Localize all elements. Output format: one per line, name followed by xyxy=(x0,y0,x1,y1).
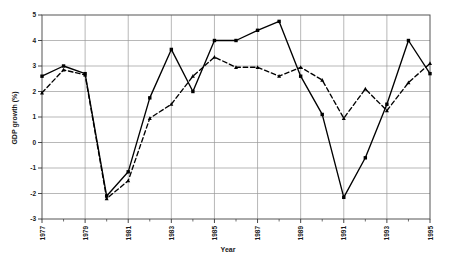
series-solid-marker xyxy=(105,194,108,197)
x-tick-label: 1991 xyxy=(340,226,347,241)
y-tick-label: -3 xyxy=(30,215,36,222)
x-tick-label: 1987 xyxy=(254,226,261,241)
series-solid-marker xyxy=(213,39,216,42)
series-solid-marker xyxy=(342,196,345,199)
series-solid-line xyxy=(42,21,430,197)
x-tick-label: 1979 xyxy=(82,226,89,241)
series-solid-marker xyxy=(62,64,65,67)
grid-lines xyxy=(42,15,430,219)
x-tick-label: 1981 xyxy=(125,226,132,241)
series-dashed-marker xyxy=(428,61,432,65)
series-solid-marker xyxy=(385,103,388,106)
series-solid-marker xyxy=(299,75,302,78)
series-solid-marker xyxy=(277,20,280,23)
series-solid-marker xyxy=(364,156,367,159)
series-dashed-line xyxy=(42,57,430,199)
y-tick-label: 2 xyxy=(32,88,36,95)
series-dashed-marker xyxy=(363,87,367,91)
gdp-growth-line-chart: 1977197919811983198519871989199119931995… xyxy=(0,0,450,262)
y-tick-label: 0 xyxy=(32,139,36,146)
x-axis-title: Year xyxy=(221,246,236,253)
y-tick-label: 3 xyxy=(32,62,36,69)
series-solid-marker xyxy=(256,29,259,32)
y-tick-label: 5 xyxy=(32,11,36,18)
series-dashed-marker xyxy=(126,179,130,183)
series-solid-marker xyxy=(40,75,43,78)
chart-canvas: 1977197919811983198519871989199119931995… xyxy=(0,0,450,262)
series-solid-marker xyxy=(407,39,410,42)
x-tick-label: 1985 xyxy=(211,226,218,241)
x-tick-label: 1977 xyxy=(39,226,46,241)
y-tick-label: 4 xyxy=(32,37,36,44)
series-solid-marker xyxy=(191,90,194,93)
series-solid-marker xyxy=(127,170,130,173)
data-series xyxy=(40,20,432,201)
y-tick-label: -2 xyxy=(30,190,36,197)
y-axis-title: GDP growth (%) xyxy=(11,91,19,144)
x-axis-ticks: 1977197919811983198519871989199119931995 xyxy=(39,219,434,240)
y-axis-ticks: 543210-1-2-3 xyxy=(30,11,42,222)
series-solid-marker xyxy=(428,72,431,75)
series-dashed-marker xyxy=(212,55,216,59)
y-tick-label: -1 xyxy=(30,164,36,171)
x-tick-label: 1983 xyxy=(168,226,175,241)
series-solid-marker xyxy=(321,113,324,116)
series-solid-marker xyxy=(83,72,86,75)
series-solid-marker xyxy=(234,39,237,42)
x-tick-label: 1995 xyxy=(427,226,434,241)
series-solid-marker xyxy=(170,48,173,51)
series-solid-marker xyxy=(148,96,151,99)
x-tick-label: 1989 xyxy=(297,226,304,241)
y-tick-label: 1 xyxy=(32,113,36,120)
x-tick-label: 1993 xyxy=(383,226,390,241)
